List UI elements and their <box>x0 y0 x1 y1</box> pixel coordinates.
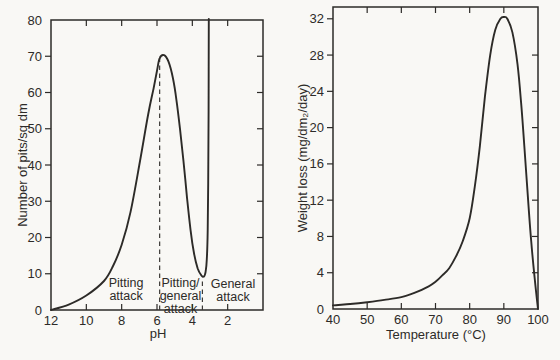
ph-pitting-chart-y-tick-label-20: 20 <box>28 230 42 245</box>
ph-pitting-chart-y-tick-label-10: 10 <box>28 266 42 281</box>
pitting-general-attack-label: attack <box>164 302 198 316</box>
pitting-general-attack-label: general <box>160 289 202 303</box>
temperature-weight-loss-chart-y-tick-label-0: 0 <box>317 302 324 317</box>
pitting-attack-label: attack <box>109 289 143 303</box>
temperature-x-axis-title: Temperature (°C) <box>386 328 486 341</box>
pitting-general-attack-label: Pitting/ <box>161 276 200 290</box>
ph-x-axis-title: pH <box>150 327 167 340</box>
ph-pitting-chart-y-tick-label-40: 40 <box>28 158 42 173</box>
ph-pitting-chart-y-tick-label-0: 0 <box>35 303 42 318</box>
temperature-weight-loss-chart-y-tick-label-4: 4 <box>317 265 324 280</box>
charts-canvas: 1210864201020304050607080PittingattackPi… <box>0 0 560 360</box>
temperature-weight-loss-chart: 405060708090100048121620242832 <box>310 7 549 327</box>
temperature-weight-loss-chart-y-tick-label-24: 24 <box>310 84 324 99</box>
temperature-weight-loss-chart-frame <box>333 7 538 309</box>
ph-pitting-chart-y-tick-label-30: 30 <box>28 194 42 209</box>
pitting-attack-label: Pitting <box>109 276 144 290</box>
pits-y-axis-title: Number of pits/sq dm <box>16 103 29 227</box>
temperature-weight-loss-chart-x-tick-label-100: 100 <box>527 312 549 327</box>
ph-pitting-chart-y-tick-label-60: 60 <box>28 85 42 100</box>
temperature-weight-loss-chart-y-tick-label-28: 28 <box>310 48 324 63</box>
weight-loss-curve <box>333 17 538 309</box>
temperature-weight-loss-chart-y-tick-label-32: 32 <box>310 11 324 26</box>
temperature-weight-loss-chart-x-tick-label-50: 50 <box>360 312 374 327</box>
temperature-weight-loss-chart-x-tick-label-70: 70 <box>428 312 442 327</box>
weight-loss-y-axis-title: Weight loss (mg/dm₂/day) <box>296 84 309 233</box>
temperature-weight-loss-chart-x-tick-label-90: 90 <box>497 312 511 327</box>
temperature-weight-loss-chart-y-tick-label-8: 8 <box>317 229 324 244</box>
corrosion-figure: 1210864201020304050607080PittingattackPi… <box>0 0 560 360</box>
ph-pitting-chart-x-tick-label-2: 2 <box>224 313 231 328</box>
temperature-weight-loss-chart-x-tick-label-60: 60 <box>394 312 408 327</box>
ph-pitting-chart-frame <box>51 20 263 310</box>
ph-pitting-chart-y-tick-label-50: 50 <box>28 121 42 136</box>
general-attack-label: General <box>211 277 255 291</box>
ph-pitting-chart-x-tick-label-8: 8 <box>118 313 125 328</box>
temperature-weight-loss-chart-y-tick-label-12: 12 <box>310 193 324 208</box>
temperature-weight-loss-chart-x-tick-label-40: 40 <box>326 312 340 327</box>
ph-pitting-chart: 1210864201020304050607080PittingattackPi… <box>28 13 263 329</box>
ph-pitting-chart-x-tick-label-10: 10 <box>79 313 93 328</box>
number-of-pits-curve <box>51 19 209 310</box>
ph-pitting-chart-x-tick-label-12: 12 <box>44 313 58 328</box>
temperature-weight-loss-chart-x-tick-label-80: 80 <box>462 312 476 327</box>
temperature-weight-loss-chart-y-tick-label-20: 20 <box>310 120 324 135</box>
ph-pitting-chart-y-tick-label-70: 70 <box>28 49 42 64</box>
temperature-weight-loss-chart-y-tick-label-16: 16 <box>310 156 324 171</box>
general-attack-label: attack <box>216 290 250 304</box>
ph-pitting-chart-y-tick-label-80: 80 <box>28 13 42 28</box>
